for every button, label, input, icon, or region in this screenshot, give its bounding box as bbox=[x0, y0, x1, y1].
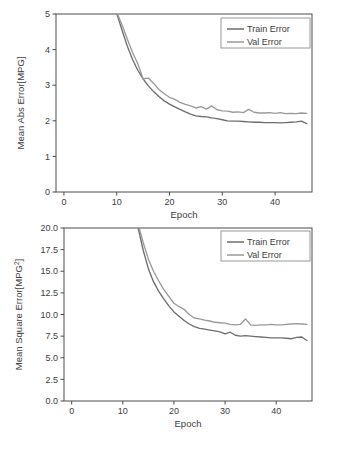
legend-label-val-error: Val Error bbox=[247, 37, 282, 47]
x-tick-label: 40 bbox=[271, 406, 281, 416]
y-tick-label: 15.0 bbox=[40, 266, 58, 276]
x-tick-label: 10 bbox=[112, 197, 122, 207]
x-axis-title: Epoch bbox=[171, 209, 198, 220]
series-line-val-error bbox=[64, 0, 307, 114]
x-tick-label: 10 bbox=[118, 406, 128, 416]
y-tick-label: 10.0 bbox=[40, 310, 58, 320]
chart-mean-abs-error: 012345010203040EpochMean Abs Error[MPG]T… bbox=[0, 0, 343, 228]
figure-page: 012345010203040EpochMean Abs Error[MPG]T… bbox=[0, 0, 343, 453]
y-tick-label: 12.5 bbox=[40, 288, 58, 298]
y-tick-label: 2 bbox=[45, 116, 50, 126]
chart-mean-square-error: 0.02.55.07.510.012.515.017.520.001020304… bbox=[0, 225, 343, 453]
y-tick-label: 0.0 bbox=[45, 396, 58, 406]
legend-label-train-error: Train Error bbox=[247, 24, 290, 34]
y-tick-label: 7.5 bbox=[45, 331, 58, 341]
x-tick-label: 20 bbox=[169, 406, 179, 416]
y-tick-label: 3 bbox=[45, 80, 50, 90]
y-tick-label: 1 bbox=[45, 152, 50, 162]
x-tick-label: 40 bbox=[270, 197, 280, 207]
legend-label-train-error: Train Error bbox=[247, 237, 290, 247]
x-tick-label: 30 bbox=[220, 406, 230, 416]
y-axis-title: Mean Square Error[MPG2] bbox=[13, 259, 25, 370]
x-tick-label: 0 bbox=[61, 197, 66, 207]
x-tick-label: 30 bbox=[217, 197, 227, 207]
y-axis-title: Mean Abs Error[MPG] bbox=[15, 57, 26, 150]
y-tick-label: 20.0 bbox=[40, 225, 58, 233]
y-tick-label: 2.5 bbox=[45, 375, 58, 385]
y-tick-label: 5 bbox=[45, 9, 50, 19]
y-tick-label: 17.5 bbox=[40, 245, 58, 255]
y-tick-label: 4 bbox=[45, 45, 50, 55]
y-tick-label: 5.0 bbox=[45, 353, 58, 363]
x-tick-label: 0 bbox=[69, 406, 74, 416]
x-tick-label: 20 bbox=[164, 197, 174, 207]
legend-label-val-error: Val Error bbox=[247, 250, 282, 260]
x-axis-title: Epoch bbox=[175, 418, 202, 429]
y-tick-label: 0 bbox=[45, 187, 50, 197]
